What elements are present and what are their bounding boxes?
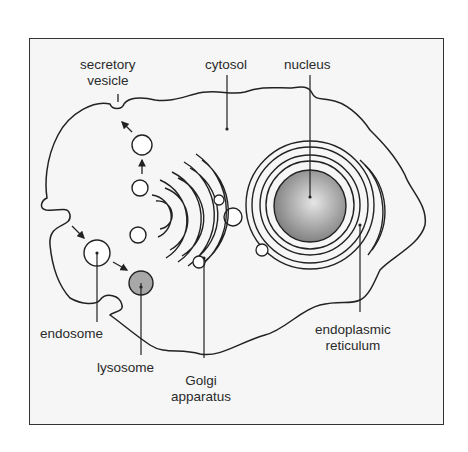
transport-vesicle [132,180,148,196]
label-secretory-vesicle: secretory vesicle [80,57,136,89]
label-cytosol: cytosol [205,57,247,73]
transport-vesicle [132,135,152,155]
label-golgi: Golgi apparatus [171,373,231,405]
golgi-apparatus [152,154,228,268]
label-er: endoplasmic reticulum [315,322,391,354]
label-endosome: endosome [40,326,103,342]
label-lysosome: lysosome [97,360,154,376]
transport-vesicle [130,227,146,243]
label-nucleus: nucleus [284,57,331,73]
